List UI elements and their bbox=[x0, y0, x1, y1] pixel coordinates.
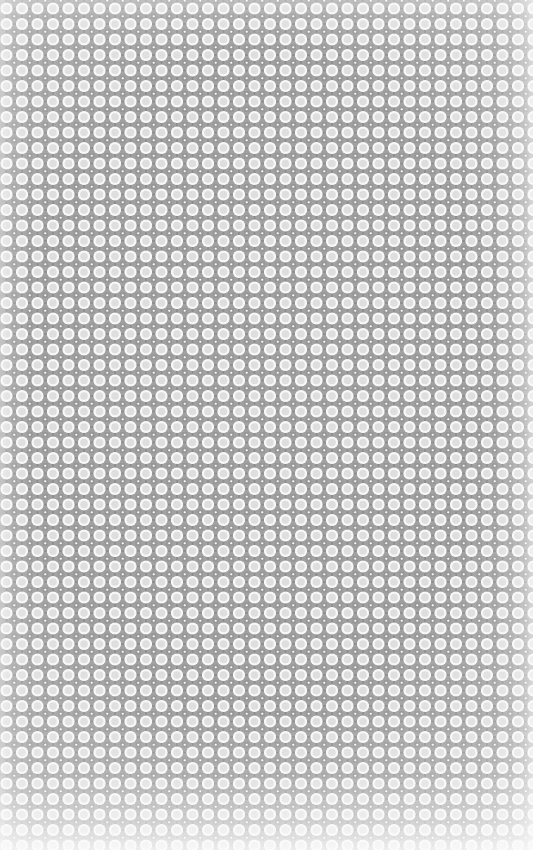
pattern-image bbox=[0, 0, 533, 850]
pattern-tile-layer bbox=[0, 0, 533, 850]
